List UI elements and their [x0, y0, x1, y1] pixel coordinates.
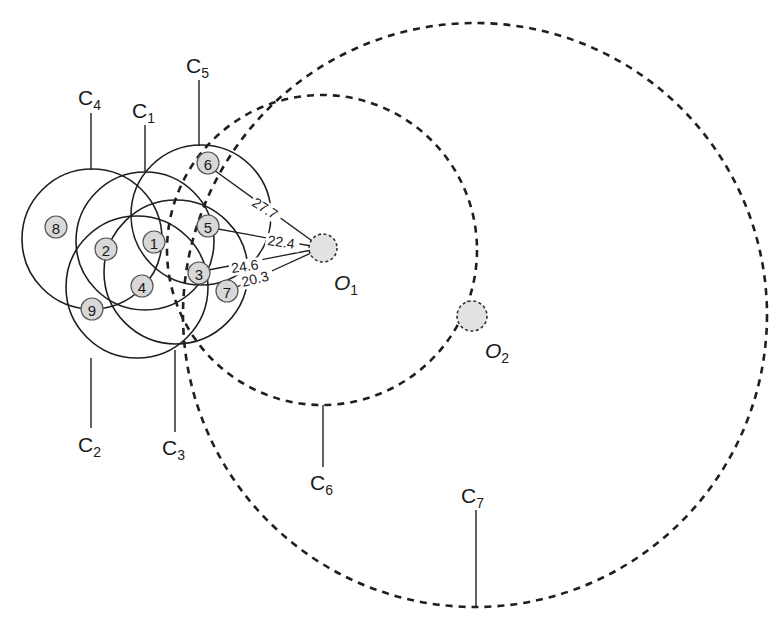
svg-text:2: 2: [102, 242, 110, 259]
circle-cluster-diagram: 27.7 22.4 24.6 20.3 1 2 3 4 5 6 7: [0, 0, 781, 627]
label-c5: C5: [186, 54, 209, 81]
svg-text:3: 3: [195, 266, 203, 283]
label-c3: C3: [162, 436, 185, 463]
svg-text:1: 1: [150, 235, 158, 252]
node-6: 6: [197, 152, 219, 174]
node-5: 5: [197, 215, 219, 237]
label-c7: C7: [461, 484, 484, 511]
svg-text:5: 5: [204, 219, 212, 236]
label-o1: O1: [334, 271, 358, 298]
origin-o1-marker: [309, 234, 337, 262]
node-4: 4: [131, 275, 153, 297]
node-7: 7: [216, 280, 238, 302]
svg-text:8: 8: [52, 220, 60, 237]
label-c6: C6: [310, 471, 333, 498]
label-c2: C2: [78, 433, 101, 460]
svg-text:4: 4: [138, 279, 146, 296]
node-9: 9: [81, 298, 103, 320]
label-c4: C4: [78, 86, 101, 113]
node-8: 8: [45, 216, 67, 238]
node-1: 1: [143, 231, 165, 253]
label-c1: C1: [132, 99, 155, 126]
svg-text:9: 9: [88, 302, 96, 319]
node-2: 2: [95, 238, 117, 260]
node-3: 3: [188, 262, 210, 284]
circle-c3: [104, 200, 248, 344]
svg-text:22.4: 22.4: [267, 232, 296, 252]
distance-label-22-4: 22.4: [265, 232, 301, 253]
svg-text:6: 6: [204, 156, 212, 173]
svg-text:7: 7: [223, 284, 231, 301]
origin-o2-marker: [457, 301, 487, 331]
label-o2: O2: [485, 339, 509, 366]
